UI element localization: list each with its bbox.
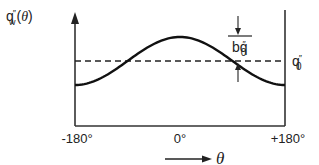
arrow-down-icon	[235, 28, 241, 35]
x-tick-label-plus-180: +180°	[271, 131, 305, 146]
y-axis-arrowhead-icon	[71, 12, 79, 24]
heat-flux-diagram: bq″0 q″w(θ) q″0 -180° 0° +180° θ	[0, 0, 319, 165]
y-axis-label: q″w(θ)	[6, 8, 33, 27]
arrow-right-icon	[202, 156, 212, 163]
x-tick-label-0: 0°	[174, 131, 186, 146]
x-axis-symbol: θ	[216, 149, 224, 165]
x-tick-label-minus-180: -180°	[61, 131, 92, 146]
reference-label: q″0	[292, 53, 303, 72]
amplitude-label: bq″0	[232, 39, 248, 58]
